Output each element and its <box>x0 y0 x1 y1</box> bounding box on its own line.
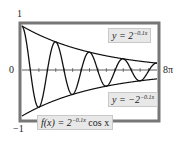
x-max-label: 8π <box>163 64 173 75</box>
y-min-label: −1 <box>13 123 24 134</box>
upper-envelope-label: y = 2−0.1x <box>108 28 151 43</box>
lower-envelope-label: y = −2−0.1x <box>108 92 158 107</box>
function-label: f(x) = 2−0.1x cos x <box>37 115 113 130</box>
y-max-label: 1 <box>17 8 22 19</box>
x-min-label: 0 <box>9 64 14 75</box>
